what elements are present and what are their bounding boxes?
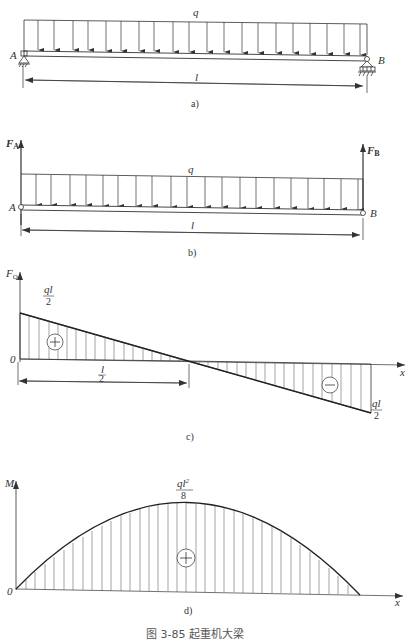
reaction-fa-label: FA	[5, 137, 19, 151]
moment-curve	[16, 502, 360, 595]
origin-label-c: 0	[10, 353, 16, 365]
half-span-label: l 2	[98, 363, 106, 384]
point-a-node	[19, 205, 24, 210]
caption-d: d)	[184, 605, 192, 617]
x-axis-label-d: x	[394, 596, 400, 608]
panel-a-beam: q	[9, 6, 385, 110]
reaction-fb-label: FB	[366, 144, 380, 158]
point-b-node	[361, 211, 366, 216]
load-label-q: q	[193, 6, 199, 18]
caption-c: c)	[186, 431, 194, 443]
point-b-label: B	[370, 207, 377, 219]
moment-max-label: ql2 8	[176, 477, 193, 501]
positive-sign-icon	[47, 334, 63, 350]
support-a-label: A	[9, 49, 17, 61]
y-axis-m-label: M	[4, 477, 15, 489]
point-a-label: A	[8, 201, 16, 213]
svg-text:2: 2	[374, 410, 379, 421]
shear-max-label: ql 2	[43, 283, 54, 307]
origin-label-d: 0	[7, 585, 13, 597]
positive-sign-icon-d	[177, 549, 195, 567]
distributed-load-arrows	[38, 20, 360, 55]
caption-a: a)	[191, 98, 199, 110]
span-label-b: l	[191, 219, 194, 231]
negative-sign-icon	[322, 377, 338, 393]
x-axis-label-c: x	[399, 366, 405, 378]
shear-min-label: ql 2	[371, 397, 382, 421]
distributed-load-arrows-b	[36, 174, 358, 210]
svg-text:ql2: ql2	[177, 477, 190, 489]
svg-text:ql: ql	[372, 397, 381, 409]
support-b-label: B	[378, 54, 385, 66]
span-label-a: l	[195, 71, 198, 83]
svg-text:2: 2	[46, 296, 51, 307]
panel-d-moment-diagram: M x 0	[4, 477, 403, 617]
load-label-q-b: q	[188, 163, 194, 175]
panel-c-shear-diagram: FQ x 0	[5, 267, 405, 443]
y-axis-fq-label: FQ	[5, 267, 18, 281]
svg-text:2: 2	[99, 373, 104, 384]
panel-b-free-body: FA FB q	[5, 137, 380, 259]
figure-title: 图 3-85 起重机大梁	[146, 627, 244, 641]
moment-hatch	[26, 503, 348, 594]
caption-b: b)	[188, 247, 196, 259]
svg-text:8: 8	[181, 490, 186, 501]
figure-canvas: q	[0, 0, 411, 644]
svg-text:ql: ql	[44, 283, 53, 295]
